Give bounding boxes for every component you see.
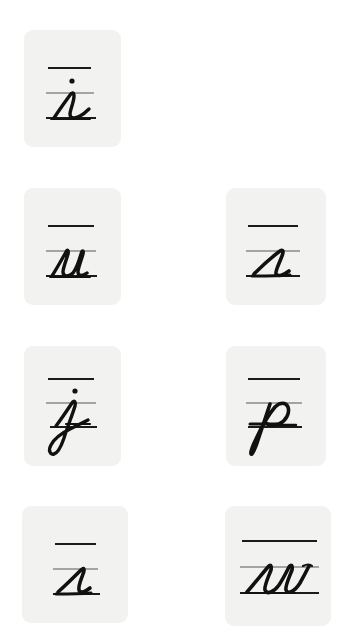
letter-i-dot (69, 78, 74, 83)
letter-s-stroke (254, 250, 289, 275)
cursive-card-j[interactable] (24, 346, 121, 466)
cursive-card-i[interactable] (24, 30, 121, 147)
letter-s-baseline-tail (252, 275, 290, 276)
letter-i-stroke (54, 93, 89, 118)
cursive-card-u[interactable] (24, 188, 121, 305)
card-s-canvas (226, 188, 326, 305)
cursive-card-s[interactable] (226, 188, 326, 305)
cursive-card-grid (0, 0, 340, 633)
cursive-card-r[interactable] (22, 506, 128, 623)
cursive-card-w[interactable] (225, 506, 331, 626)
card-r-canvas (22, 506, 128, 623)
letter-w-stroke (247, 565, 309, 592)
card-j-canvas (24, 346, 121, 466)
card-p-canvas (226, 346, 326, 466)
letter-j-dot (72, 388, 77, 393)
letter-p-stroke (251, 403, 289, 454)
card-w-canvas (225, 506, 331, 626)
letter-u-stroke (52, 250, 87, 276)
card-u-canvas (24, 188, 121, 305)
letter-r-stroke (58, 569, 90, 593)
card-i-canvas (24, 30, 121, 147)
letter-r-baseline-tail (56, 593, 91, 594)
cursive-card-p[interactable] (226, 346, 326, 466)
